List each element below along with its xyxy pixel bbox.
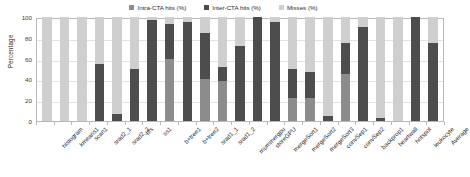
x-axis-tick-mark	[71, 122, 72, 125]
bar-stack[interactable]	[428, 19, 437, 121]
bar-segment	[200, 33, 209, 80]
bar-stack[interactable]	[147, 19, 156, 121]
legend-label: Inter-CTA hits (%)	[212, 5, 261, 11]
bar-segment	[147, 17, 156, 20]
bar-stack[interactable]	[200, 19, 209, 121]
bar-stack[interactable]	[393, 19, 402, 121]
y-axis-tick-label: 20	[25, 98, 32, 104]
bar-stack[interactable]	[112, 19, 121, 121]
bar-slot	[407, 19, 425, 121]
y-axis-tick-label: 40	[25, 77, 32, 83]
bar-segment	[428, 17, 437, 43]
bar-stack[interactable]	[95, 19, 104, 121]
bar-stack[interactable]	[42, 19, 51, 121]
bar-segment	[341, 43, 350, 74]
legend-swatch-icon	[129, 5, 134, 10]
x-axis-tick-mark	[231, 122, 232, 125]
bar-stack[interactable]	[77, 19, 86, 121]
bar-segment	[235, 46, 244, 121]
bar-segment	[305, 72, 314, 98]
bar-slot	[389, 19, 407, 121]
bar-segment	[288, 98, 297, 121]
x-axis-tick-mark	[213, 122, 214, 125]
x-axis-tick-mark	[391, 122, 392, 125]
bar-stack[interactable]	[358, 19, 367, 121]
bar-segment	[165, 17, 174, 24]
bar-stack[interactable]	[270, 19, 279, 121]
bar-segment	[341, 74, 350, 121]
bar-segment	[183, 17, 192, 22]
bar-slot	[38, 19, 56, 121]
bar-segment	[200, 17, 209, 33]
bar-segment	[270, 22, 279, 121]
bar-slot	[179, 19, 197, 121]
bar-slot	[91, 19, 109, 121]
bar-segment	[376, 17, 385, 118]
bar-stack[interactable]	[305, 19, 314, 121]
bar-segment	[147, 20, 156, 121]
bar-slot	[143, 19, 161, 121]
bar-stack[interactable]	[323, 19, 332, 121]
bar-slot	[319, 19, 337, 121]
bar-stack[interactable]	[60, 19, 69, 121]
y-axis-tick-label: 0	[29, 119, 32, 125]
x-axis-tick-mark	[444, 122, 445, 125]
bar-segment	[393, 17, 402, 121]
y-axis-tick-label: 60	[25, 56, 32, 62]
x-axis-category-label: srad2_1	[113, 126, 133, 146]
bar-slot	[126, 19, 144, 121]
bar-segment	[200, 79, 209, 121]
bar-stack[interactable]	[376, 19, 385, 121]
bar-segment	[235, 17, 244, 46]
bar-slot	[301, 19, 319, 121]
y-axis-tick-label: 100	[22, 15, 32, 21]
legend-entry: Misses (%)	[279, 5, 318, 11]
legend-entry: Intra-CTA hits (%)	[129, 5, 186, 11]
x-axis-tick-mark	[54, 122, 55, 125]
bar-segment	[218, 17, 227, 67]
bar-segment	[305, 98, 314, 121]
bar-segment	[270, 17, 279, 22]
bar-stack[interactable]	[288, 19, 297, 121]
x-axis-category-label: srad1_1	[219, 126, 239, 146]
x-axis-tick-mark	[160, 122, 161, 125]
bar-stack[interactable]	[411, 19, 420, 121]
bar-stack[interactable]	[235, 19, 244, 121]
bar-segment	[42, 17, 51, 121]
bar-slot	[424, 19, 442, 121]
bar-segment	[183, 22, 192, 121]
bar-stack[interactable]	[130, 19, 139, 121]
bar-segment	[323, 116, 332, 121]
y-axis-title: Percentage	[7, 22, 14, 82]
x-axis-tick-mark	[36, 122, 37, 125]
bar-stack[interactable]	[165, 19, 174, 121]
x-axis-tick-mark	[89, 122, 90, 125]
x-axis-category-label: b+tree2	[201, 126, 220, 145]
legend-entry: Inter-CTA hits (%)	[204, 5, 261, 11]
legend-label: Misses (%)	[287, 5, 318, 11]
bar-group	[37, 19, 443, 121]
x-axis-tick-mark	[320, 122, 321, 125]
bar-stack[interactable]	[253, 19, 262, 121]
x-axis-category-label: ss1	[162, 126, 173, 137]
x-axis-tick-mark	[284, 122, 285, 125]
bar-segment	[305, 17, 314, 72]
bar-segment	[376, 118, 385, 121]
x-axis-tick-mark	[249, 122, 250, 125]
bar-segment	[60, 17, 69, 121]
bar-segment	[165, 24, 174, 58]
bar-stack[interactable]	[183, 19, 192, 121]
bar-slot	[231, 19, 249, 121]
bar-stack[interactable]	[218, 19, 227, 121]
bar-segment	[253, 17, 262, 121]
bar-segment	[95, 17, 104, 64]
bar-stack[interactable]	[341, 19, 350, 121]
x-axis-tick-mark	[142, 122, 143, 125]
bar-slot	[266, 19, 284, 121]
bar-segment	[130, 17, 139, 69]
bar-slot	[372, 19, 390, 121]
bar-segment	[95, 64, 104, 121]
legend-swatch-icon	[204, 5, 209, 10]
bar-segment	[358, 17, 367, 27]
